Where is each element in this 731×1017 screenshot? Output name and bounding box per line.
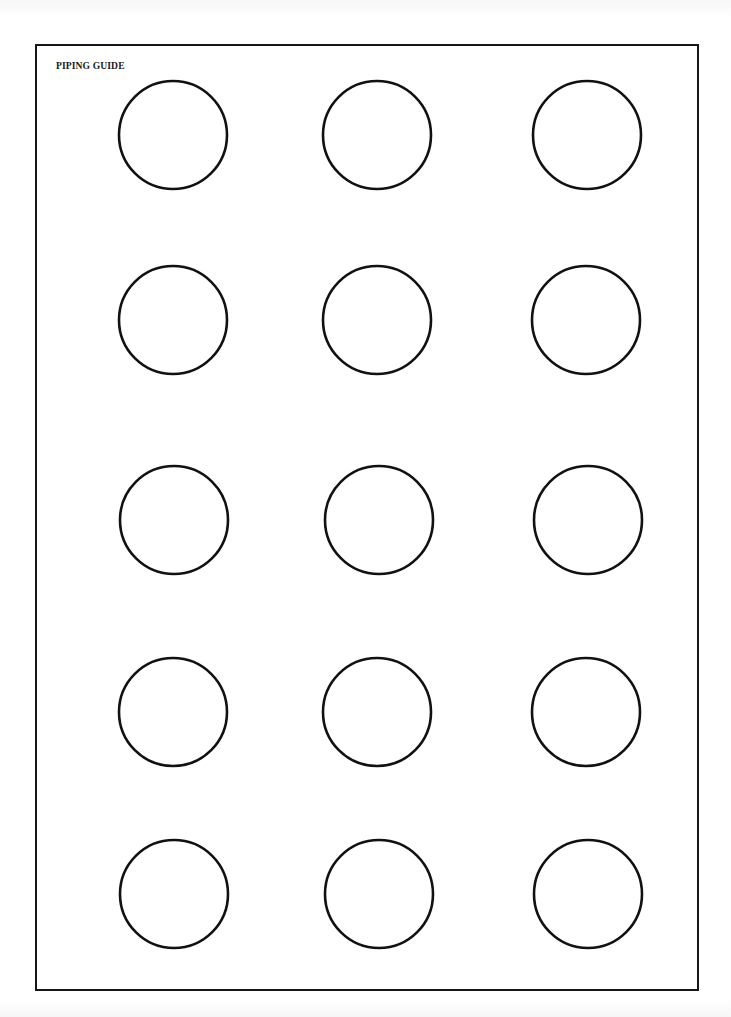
piping-circle-r1-c1 bbox=[119, 81, 227, 189]
piping-circle-r4-c3 bbox=[532, 658, 640, 766]
piping-circle-r5-c2 bbox=[325, 840, 433, 948]
piping-circle-r2-c3 bbox=[532, 266, 640, 374]
piping-circle-r4-c2 bbox=[323, 658, 431, 766]
piping-circle-grid bbox=[0, 0, 731, 1017]
piping-circle-r1-c3 bbox=[533, 81, 641, 189]
piping-circle-r4-c1 bbox=[119, 658, 227, 766]
piping-circle-r3-c1 bbox=[120, 466, 228, 574]
piping-circle-r2-c2 bbox=[323, 266, 431, 374]
piping-circle-r2-c1 bbox=[119, 266, 227, 374]
piping-circle-r3-c2 bbox=[325, 466, 433, 574]
piping-circle-r1-c2 bbox=[323, 81, 431, 189]
piping-circle-r5-c1 bbox=[120, 840, 228, 948]
piping-circle-r5-c3 bbox=[534, 840, 642, 948]
piping-circle-r3-c3 bbox=[534, 466, 642, 574]
